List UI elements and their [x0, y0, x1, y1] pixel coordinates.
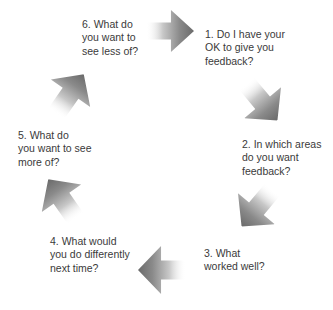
arrow-up-left-icon	[29, 166, 96, 233]
step-4-label: 4. What would you do differently next ti…	[50, 235, 130, 275]
arrow-up-right-icon	[37, 61, 104, 128]
step-3-label: 3. What worked well?	[204, 247, 265, 274]
arrow-right-icon	[146, 10, 194, 52]
step-2-label: 2. In which areas do you want feedback?	[242, 138, 321, 178]
step-5-label: 5. What do you want to see more of?	[18, 129, 92, 169]
step-1-label: 1. Do I have your OK to give you feedbac…	[205, 28, 285, 68]
arrow-down-left-icon	[223, 174, 291, 242]
step-6-label: 6. What do you want to see less of?	[82, 18, 138, 58]
arrow-left-icon	[138, 246, 186, 294]
arrow-down-right-icon	[228, 68, 296, 136]
